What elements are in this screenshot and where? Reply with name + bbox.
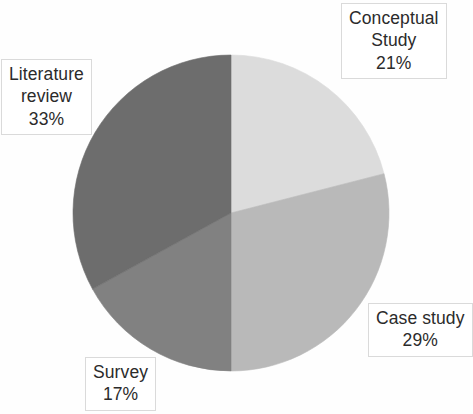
data-label-literature-review-value: 33%	[9, 108, 84, 130]
data-label-literature-review-line2: review	[9, 85, 84, 107]
data-label-conceptual-study-line1: Conceptual	[349, 7, 439, 29]
data-label-conceptual-study-line2: Study	[349, 29, 439, 51]
data-label-conceptual-study: Conceptual Study 21%	[341, 3, 447, 79]
data-label-survey-line1: Survey	[93, 361, 148, 383]
data-label-case-study-line1: Case study	[376, 307, 465, 329]
data-label-survey-value: 17%	[93, 383, 148, 405]
data-label-case-study-value: 29%	[376, 329, 465, 351]
data-label-conceptual-study-value: 21%	[349, 52, 439, 74]
data-label-literature-review: Literature review 33%	[1, 59, 92, 135]
data-label-case-study: Case study 29%	[368, 303, 473, 357]
data-label-survey: Survey 17%	[85, 357, 156, 411]
data-label-literature-review-line1: Literature	[9, 63, 84, 85]
pie-slices	[73, 55, 389, 371]
